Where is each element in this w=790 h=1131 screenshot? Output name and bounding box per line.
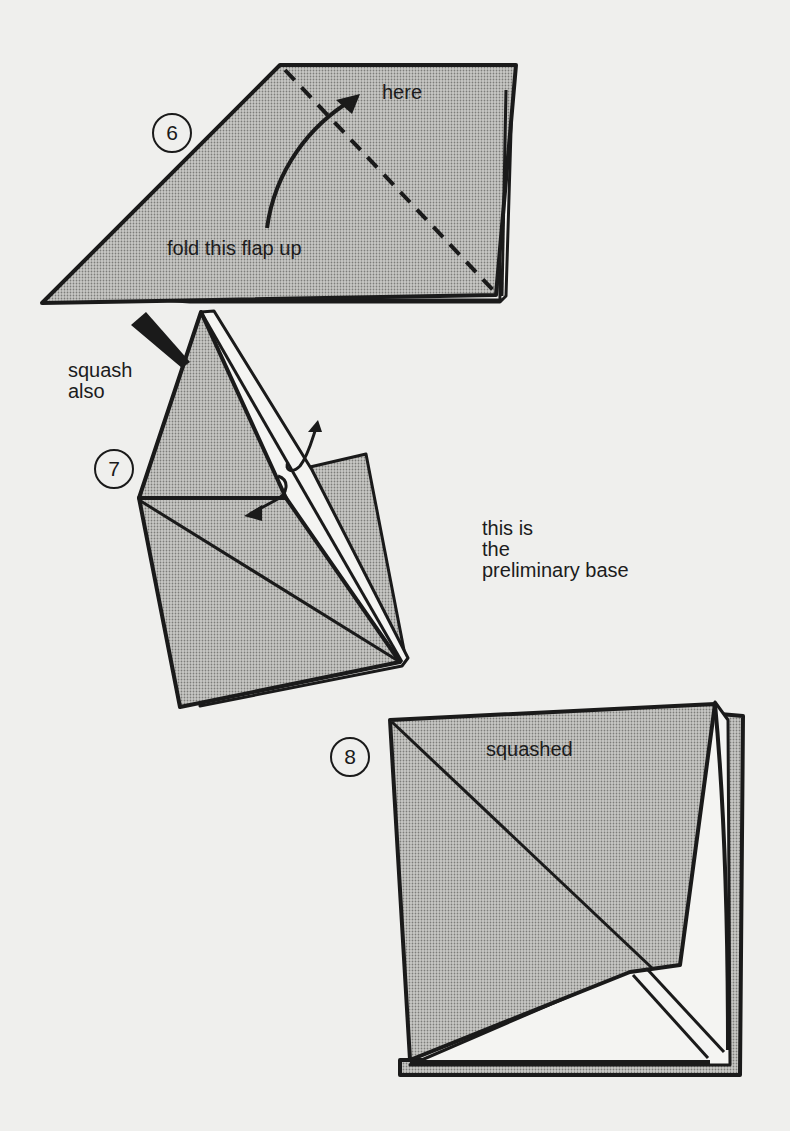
push-arrow-icon	[131, 312, 190, 368]
step-7-figure	[131, 311, 408, 707]
unfold-arrow-head-icon	[308, 420, 322, 432]
step-6-figure	[42, 65, 516, 303]
origami-diagram	[0, 0, 790, 1131]
step-8-number: 8	[330, 737, 370, 777]
step-6-number: 6	[152, 113, 192, 153]
step-7-note-label: this is the preliminary base	[482, 518, 629, 581]
step-7-action-label: squash also	[68, 360, 133, 402]
step-7-number: 7	[94, 449, 134, 489]
step-8-result-label: squashed	[486, 739, 573, 760]
step-6-instruction-label: fold this flap up	[167, 238, 302, 259]
step-6-target-label: here	[382, 82, 422, 103]
